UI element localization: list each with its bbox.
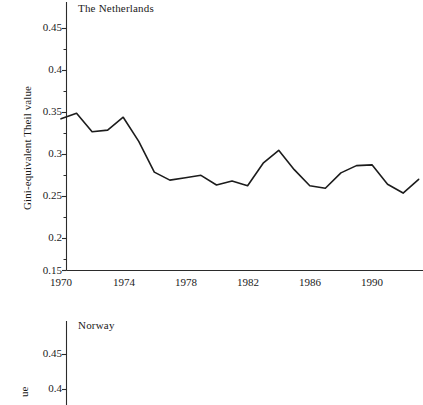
panel-norway: ue Norway 0.45 0.4: [0, 292, 423, 405]
plot-svg-norway: [0, 292, 423, 405]
panel-netherlands: Gini-equivalent Theil value The Netherla…: [0, 0, 423, 292]
figure-two-panel-line-charts: Gini-equivalent Theil value The Netherla…: [0, 0, 423, 405]
plot-svg-netherlands: [0, 0, 423, 292]
data-line-netherlands: [61, 113, 419, 193]
y-axis-major-ticks: [62, 29, 67, 271]
y-axis-major-ticks-norway: [62, 355, 67, 390]
